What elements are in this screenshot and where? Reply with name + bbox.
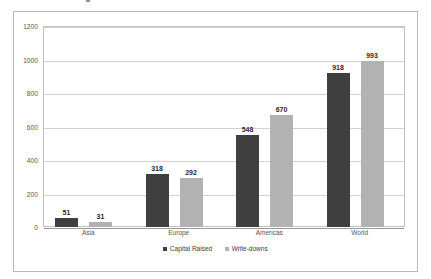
x-tick-label-americas: Americas [256, 229, 283, 236]
bar-asia-write-downs[interactable]: 31 [89, 222, 112, 227]
y-tick-label: 800 [27, 90, 38, 97]
bar-value-label: 670 [276, 106, 288, 113]
legend-item-write-downs[interactable]: Write-downs [225, 245, 268, 252]
cropped-artifact-mark [86, 0, 90, 2]
bar-group-world: 918993 [315, 26, 406, 227]
bar-asia-capital-raised[interactable]: 51 [55, 218, 78, 227]
bar-europe-capital-raised[interactable]: 318 [146, 174, 169, 227]
bar-group-europe: 318292 [134, 26, 225, 227]
x-tick-label-world: World [351, 229, 368, 236]
bar-value-label: 292 [185, 169, 197, 176]
legend-swatch-icon [163, 247, 167, 251]
y-tick-label: 200 [27, 190, 38, 197]
bars-layer: 5131318292548670918993 [43, 26, 405, 227]
bar-group-americas: 548670 [224, 26, 315, 227]
bar-americas-capital-raised[interactable]: 548 [236, 135, 259, 227]
bar-value-label: 318 [151, 165, 163, 172]
bar-world-capital-raised[interactable]: 918 [327, 73, 350, 227]
x-axis: AsiaEuropeAmericasWorld [43, 229, 405, 243]
bar-world-write-downs[interactable]: 993 [361, 61, 384, 227]
y-axis: 020040060080010001200 [14, 26, 41, 227]
bar-europe-write-downs[interactable]: 292 [180, 178, 203, 227]
chart-legend: Capital RaisedWrite-downs [14, 245, 417, 252]
y-tick-label: 1200 [23, 23, 38, 30]
bar-value-label: 31 [97, 213, 105, 220]
legend-item-capital-raised[interactable]: Capital Raised [163, 245, 212, 252]
x-tick-label-europe: Europe [168, 229, 189, 236]
y-tick-label: 0 [34, 224, 38, 231]
bar-americas-write-downs[interactable]: 670 [270, 115, 293, 227]
legend-label: Write-downs [232, 245, 268, 252]
chart-frame: 020040060080010001200 513131829254867091… [13, 11, 418, 272]
bar-group-asia: 5131 [43, 26, 134, 227]
bar-value-label: 51 [63, 209, 71, 216]
y-tick-label: 400 [27, 157, 38, 164]
bar-value-label: 993 [366, 52, 378, 59]
x-tick-label-asia: Asia [82, 229, 95, 236]
legend-label: Capital Raised [170, 245, 212, 252]
y-tick-label: 600 [27, 123, 38, 130]
bar-value-label: 918 [332, 64, 344, 71]
bar-value-label: 548 [242, 126, 254, 133]
legend-swatch-icon [225, 247, 229, 251]
y-tick-label: 1000 [23, 56, 38, 63]
